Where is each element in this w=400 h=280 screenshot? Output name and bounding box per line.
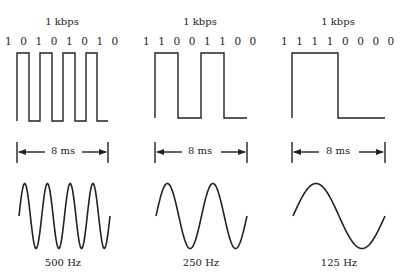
- panel-2-square-wave: [155, 53, 247, 118]
- panel-3-duration-bracket: [292, 142, 385, 163]
- panel-1-square-wave: [17, 53, 108, 121]
- panel-2-duration-bracket: [155, 142, 247, 163]
- panel-2-sine-wave: [156, 184, 247, 249]
- signal-diagram: [0, 0, 400, 280]
- panel-3-square-wave: [292, 53, 385, 118]
- panel-1-duration-bracket: [17, 142, 108, 163]
- panel-1-sine-wave: [19, 184, 110, 249]
- panel-3-sine-wave: [293, 184, 385, 249]
